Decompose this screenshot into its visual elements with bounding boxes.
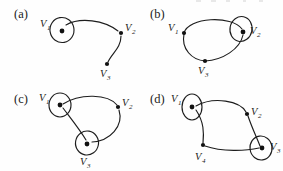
panel-b-vertex-v1 xyxy=(182,31,186,35)
panel-d-edge-v2-v3 xyxy=(248,116,260,146)
panel-a: (a) V 1 V 2 V 3 xyxy=(14,7,136,82)
panel-b-edge-v1-v3 xyxy=(184,34,205,61)
svg-text:2: 2 xyxy=(258,112,262,120)
panel-b-vertex-label-v3: V 3 xyxy=(198,65,209,79)
panel-b-label: (b) xyxy=(150,7,165,21)
svg-text:1: 1 xyxy=(178,99,182,107)
panel-b: (b) V 1 V 2 V 3 xyxy=(150,7,261,79)
panel-d-vertex-label-v4: V 4 xyxy=(195,151,206,165)
panel-d-vertex-label-v1: V 1 xyxy=(171,93,182,107)
svg-text:3: 3 xyxy=(106,74,111,82)
svg-text:2: 2 xyxy=(132,28,136,36)
panel-d-vertex-v4 xyxy=(201,143,205,147)
panel-d-vertex-label-v2: V 2 xyxy=(251,106,262,120)
panel-d-vertex-v1 xyxy=(190,105,195,110)
svg-text:1: 1 xyxy=(46,98,50,106)
panel-a-vertex-v2 xyxy=(119,31,123,35)
panel-d-edge-v1-v2 xyxy=(196,101,246,112)
panel-a-vertex-label-v3: V 3 xyxy=(100,68,111,82)
svg-text:2: 2 xyxy=(257,31,261,39)
panel-a-label: (a) xyxy=(14,7,28,21)
panel-c-vertex-v3 xyxy=(85,142,90,147)
panel-c-vertex-label-v2: V 2 xyxy=(122,97,133,111)
panel-c: (c) V 1 V 2 V 3 xyxy=(14,92,133,170)
panel-c-vertex-label-v1: V 1 xyxy=(39,92,50,106)
panel-c-label: (c) xyxy=(14,92,28,106)
svg-text:3: 3 xyxy=(204,71,209,79)
figure-root: (a) V 1 V 2 V 3 xyxy=(0,0,283,171)
panel-b-vertex-label-v2: V 2 xyxy=(250,25,261,39)
panel-c-vertex-label-v3: V 3 xyxy=(80,156,91,170)
panel-c-vertex-v2 xyxy=(116,105,120,109)
panel-b-vertex-v3 xyxy=(203,59,207,63)
panel-d-vertex-v3 xyxy=(260,146,265,151)
svg-text:4: 4 xyxy=(202,157,206,165)
panel-d-vertex-v2 xyxy=(245,112,249,116)
panel-b-edge-v1-v2 xyxy=(184,20,242,33)
svg-text:3: 3 xyxy=(86,162,91,170)
panel-d-edge-v4-v3 xyxy=(205,146,259,150)
svg-text:3: 3 xyxy=(276,147,281,155)
top-edge-artifact xyxy=(196,0,263,2)
panel-b-edge-v3-v2 xyxy=(205,35,243,61)
panel-c-edge-v1-v3 xyxy=(63,108,86,140)
panel-a-edge-v2-v3 xyxy=(108,36,121,62)
panel-a-vertex-label-v1: V 1 xyxy=(40,18,51,32)
panel-a-vertex-v3 xyxy=(105,62,109,66)
panel-d-label: (d) xyxy=(150,92,165,106)
panel-c-vertex-v1 xyxy=(58,103,63,108)
panel-b-vertex-label-v1: V 1 xyxy=(168,22,179,36)
panel-a-vertex-v1 xyxy=(60,29,65,34)
panel-b-vertex-v2 xyxy=(241,30,246,35)
svg-text:1: 1 xyxy=(175,28,179,36)
svg-text:2: 2 xyxy=(129,103,133,111)
panel-d: (d) V 1 V 2 xyxy=(150,92,281,165)
svg-text:1: 1 xyxy=(47,24,51,32)
graph-figure-canvas: (a) V 1 V 2 V 3 xyxy=(0,0,283,171)
panel-a-vertex-label-v2: V 2 xyxy=(125,22,136,36)
panel-c-edge-v2-v3 xyxy=(92,110,120,142)
